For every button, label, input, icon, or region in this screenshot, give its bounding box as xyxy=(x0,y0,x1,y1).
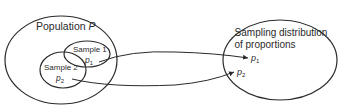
distribution-title-line-1: Sampling distribution xyxy=(235,27,328,38)
arrow-p1 xyxy=(99,52,248,62)
distribution-point-p1: p1 xyxy=(250,53,260,64)
arrow-p2 xyxy=(72,72,234,86)
sample-2-label: Sample 2 xyxy=(44,63,78,72)
distribution-title-line-2: of proportions xyxy=(234,39,295,50)
sample-2-stat: p2 xyxy=(55,73,65,84)
sampling-diagram: Population P Sample 1 p1 Sample 2 p2 Sam… xyxy=(0,0,342,109)
population-label: Population P xyxy=(36,20,96,32)
sample-1-label: Sample 1 xyxy=(73,45,107,54)
distribution-point-p2: p2 xyxy=(236,67,246,78)
